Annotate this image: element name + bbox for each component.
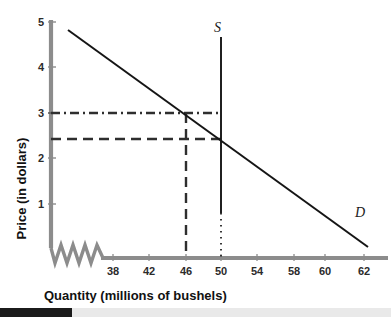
y-tick-label-2: 2	[28, 153, 44, 164]
x-tick-label-42: 42	[134, 266, 164, 277]
footer-gray-strip	[72, 308, 391, 317]
y-tick-label-4: 4	[28, 62, 44, 73]
demand-curve-line	[68, 30, 368, 247]
y-tick-label-3: 3	[28, 108, 44, 119]
y-tick-label-1: 1	[28, 199, 44, 210]
supply-demand-figure: 5 4 3 2 1 38 42 46 50 54 58 60 62 S D Qu…	[0, 0, 391, 317]
x-axis-title: Quantity (millions of bushels)	[44, 288, 227, 303]
axis-break-zigzag	[51, 245, 103, 263]
x-tick-label-46: 46	[171, 266, 201, 277]
x-tick-label-62: 62	[349, 266, 379, 277]
y-axis-title: Price (in dollars)	[14, 129, 29, 249]
x-tick-label-58: 58	[279, 266, 309, 277]
supply-curve-label: S	[214, 21, 221, 35]
y-tick-label-5: 5	[28, 17, 44, 28]
demand-curve-label: D	[355, 206, 365, 220]
x-tick-label-50: 50	[206, 266, 236, 277]
x-tick-label-54: 54	[242, 266, 272, 277]
footer-black-bar	[0, 308, 72, 317]
x-tick-label-38: 38	[98, 266, 128, 277]
x-tick-label-60: 60	[310, 266, 340, 277]
